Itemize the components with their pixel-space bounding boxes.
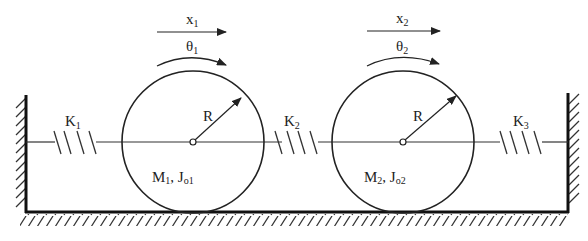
svg-text:x2: x2 xyxy=(396,10,409,28)
center-pin-1 xyxy=(190,139,196,145)
svg-text:θ2: θ2 xyxy=(396,38,408,56)
spring-k1 xyxy=(54,131,96,154)
displacement-arrow-x2: x2 xyxy=(367,10,440,31)
center-pin-2 xyxy=(400,139,406,145)
right-wall-hatch xyxy=(569,94,579,203)
mass-label-2: M2, Jo2 xyxy=(364,169,406,186)
radius-arrow-1 xyxy=(195,98,241,140)
radius-label-1: R xyxy=(203,108,213,124)
mass-label-1: M1, Jo1 xyxy=(152,169,194,186)
rotation-arrow-theta2: θ2 xyxy=(367,38,439,66)
displacement-arrow-x1: x1 xyxy=(157,11,226,32)
radius-label-2: R xyxy=(413,108,423,124)
spring-k2-label: K2 xyxy=(284,113,300,131)
spring-k1-label: K1 xyxy=(65,113,81,131)
rotation-arrow-theta1: θ1 xyxy=(157,38,226,66)
ground-hatch xyxy=(20,214,568,226)
diagram-canvas: K1 K2 K3 R M1, Jo1 x1 θ1 R M2, Jo2 xyxy=(0,0,588,241)
svg-text:x1: x1 xyxy=(186,11,199,29)
svg-text:θ1: θ1 xyxy=(186,38,198,56)
spring-k3 xyxy=(500,131,541,154)
spring-k3-label: K3 xyxy=(513,113,529,131)
